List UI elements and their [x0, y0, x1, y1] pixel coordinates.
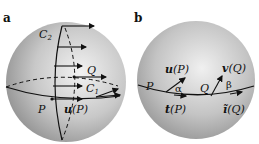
label-t-p: t(P) [165, 103, 186, 116]
label-v-q: v(Q) [222, 62, 246, 75]
point-p [50, 97, 53, 100]
label-u-p: u(P) [165, 63, 189, 76]
point-q [73, 76, 76, 79]
sphere-diagram-a: a C2 Q C1 P u(P) [0, 0, 130, 144]
panel-label-b: b [134, 11, 142, 25]
label-beta: β [226, 79, 232, 90]
label-q: Q [87, 64, 96, 77]
panel-label-a: a [3, 11, 11, 25]
label-t-tilde-q: ĩ(Q) [223, 103, 245, 116]
label-q: Q [200, 82, 209, 95]
label-p: P [37, 103, 46, 116]
sphere [6, 22, 126, 142]
label-p: P [145, 80, 154, 93]
panel-b: b u(P) v(Q) P α Q β t(P) ĩ(Q) [130, 0, 259, 144]
panel-a: a C2 Q C1 P u(P) [0, 0, 130, 144]
sphere-diagram-b: b u(P) v(Q) P α Q β t(P) ĩ(Q) [130, 0, 259, 144]
label-alpha: α [175, 83, 182, 94]
sphere [137, 21, 255, 139]
label-u-p: u(P) [64, 103, 88, 116]
